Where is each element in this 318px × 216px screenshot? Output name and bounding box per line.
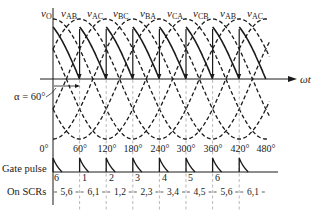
wt-axis-arrow-icon xyxy=(288,76,297,82)
on-scr-interval: 3,4 xyxy=(167,188,179,198)
waveform-diagram xyxy=(0,0,318,216)
voltage-label: vBC xyxy=(113,8,129,21)
scr-number: 1 xyxy=(82,173,87,183)
angle-tick: 300° xyxy=(177,144,196,154)
scr-number: 2 xyxy=(109,173,114,183)
angle-tick: 420° xyxy=(231,144,250,154)
firing-angle-label: α = 60° xyxy=(14,92,45,103)
voltage-label: vAB xyxy=(220,8,236,21)
angle-tick: 0° xyxy=(40,144,49,154)
angle-tick: 480° xyxy=(257,144,276,154)
alpha-leader-line xyxy=(46,88,56,97)
angle-tick: 360° xyxy=(204,144,223,154)
scr-number: 5 xyxy=(188,173,193,183)
alpha-arrow-icon xyxy=(75,84,80,88)
angle-tick: 180° xyxy=(124,144,143,154)
scr-number: 6 xyxy=(215,173,220,183)
angle-tick: 60° xyxy=(73,144,87,154)
on-scr-interval: 5,6 xyxy=(221,188,233,198)
commutation-jump-arrows xyxy=(78,29,242,79)
on-scr-interval: 4,5 xyxy=(194,188,206,198)
voltage-label: vCA xyxy=(167,8,183,21)
gate-pulse-label: Gate pulse xyxy=(2,164,47,175)
angle-tick: 240° xyxy=(151,144,170,154)
scr-number: 3 xyxy=(135,173,140,183)
on-scr-interval: 1,2 xyxy=(114,188,126,198)
voltage-label: vAC xyxy=(247,8,263,21)
gate-pulses xyxy=(53,158,248,172)
vo-axis-label: vO xyxy=(41,8,52,21)
voltage-label: vAB xyxy=(61,8,77,21)
angle-tick: 120° xyxy=(98,144,117,154)
on-scr-interval: 6,1 xyxy=(247,188,259,198)
on-scr-interval: 6,1 xyxy=(88,188,100,198)
on-scrs-label: On SCRs xyxy=(7,187,46,198)
voltage-label: vCB xyxy=(193,8,209,21)
on-scr-interval: 5,6 xyxy=(61,188,73,198)
on-scr-interval: 2,3 xyxy=(141,188,153,198)
voltage-label: vAC xyxy=(87,8,103,21)
wt-axis-label: ωt xyxy=(300,74,311,85)
scr-number: 6 xyxy=(54,173,59,183)
scr-number: 4 xyxy=(162,173,167,183)
voltage-label: vBA xyxy=(140,8,156,21)
